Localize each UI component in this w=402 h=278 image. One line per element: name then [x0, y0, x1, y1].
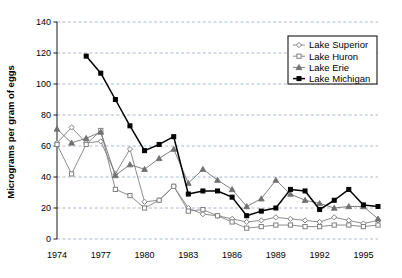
x-tick-label: 1977 [91, 250, 111, 260]
data-point [259, 225, 263, 229]
x-tick-label: 1974 [47, 250, 67, 260]
data-point [113, 187, 117, 191]
data-point [230, 220, 234, 224]
data-point [347, 223, 351, 227]
data-point [216, 189, 220, 193]
data-point [274, 223, 278, 227]
data-point [361, 225, 365, 229]
x-tick-label: 1989 [266, 250, 286, 260]
y-tick-label: 40 [41, 172, 51, 182]
data-point [288, 187, 292, 191]
data-point [318, 208, 322, 212]
legend-label: Lake Superior [309, 39, 368, 50]
legend-label: Lake Michigan [309, 73, 370, 84]
chart-legend: Lake SuperiorLake HuronLake ErieLake Mic… [288, 36, 377, 84]
data-point [172, 184, 176, 188]
y-tick-label: 0 [46, 234, 51, 244]
data-point [157, 198, 161, 202]
y-tick-label: 80 [41, 110, 51, 120]
legend-label: Lake Huron [309, 51, 358, 62]
data-point [332, 223, 336, 227]
data-point [259, 209, 263, 213]
data-point [361, 203, 365, 207]
data-point [288, 223, 292, 227]
x-tick-label: 1992 [310, 250, 330, 260]
legend-label: Lake Erie [309, 62, 349, 73]
data-point [142, 206, 146, 210]
data-point [99, 71, 103, 75]
y-tick-label: 100 [36, 79, 51, 89]
data-point [230, 195, 234, 199]
data-point [245, 214, 249, 218]
data-point [376, 223, 380, 227]
data-point [186, 209, 190, 213]
data-point [143, 149, 147, 153]
data-point [318, 225, 322, 229]
y-tick-label: 20 [41, 203, 51, 213]
data-point [69, 172, 73, 176]
x-tick-label: 1986 [222, 250, 242, 260]
x-tick-label: 1995 [353, 250, 373, 260]
legend-sample-marker [297, 54, 301, 58]
y-axis-title: Micrograms per gram of eggs [5, 65, 16, 199]
data-point [274, 206, 278, 210]
data-point [303, 225, 307, 229]
data-point [303, 189, 307, 193]
data-point [215, 214, 219, 218]
data-point [113, 98, 117, 102]
data-point [172, 135, 176, 139]
data-point [128, 194, 132, 198]
data-point [201, 207, 205, 211]
chart-container: 020406080100120140 197419771980198319861… [0, 0, 402, 278]
y-tick-label: 120 [36, 48, 51, 58]
data-point [332, 198, 336, 202]
data-point [157, 142, 161, 146]
y-tick-label: 140 [36, 17, 51, 27]
data-point [245, 226, 249, 230]
data-point [376, 204, 380, 208]
data-point [186, 192, 190, 196]
data-point [84, 54, 88, 58]
data-point [347, 187, 351, 191]
data-point [128, 124, 132, 128]
data-point [84, 142, 88, 146]
data-point [201, 189, 205, 193]
legend-sample-marker [297, 77, 301, 81]
x-tick-label: 1980 [135, 250, 155, 260]
y-tick-label: 60 [41, 141, 51, 151]
line-chart: 020406080100120140 197419771980198319861… [0, 0, 402, 278]
x-tick-label: 1983 [178, 250, 198, 260]
data-point [55, 142, 59, 146]
